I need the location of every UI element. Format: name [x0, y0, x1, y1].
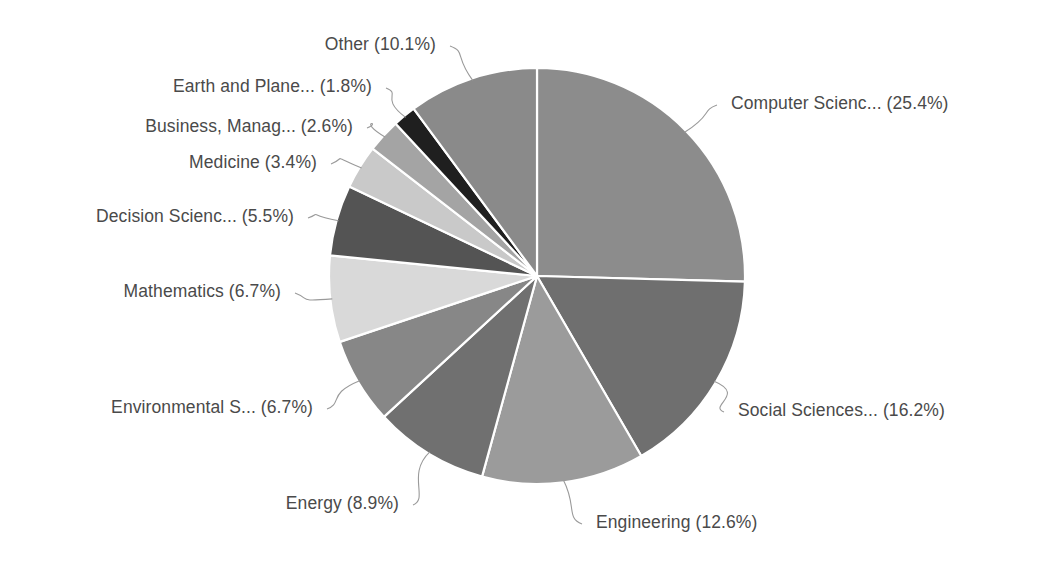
pie-chart: Computer Scienc... (25.4%)Social Science…	[0, 0, 1052, 577]
pie-slice-label: Engineering (12.6%)	[596, 514, 757, 532]
pie-slice-label: Earth and Plane... (1.8%)	[173, 78, 372, 96]
pie-slice-label: Environmental S... (6.7%)	[111, 399, 313, 417]
pie-slice-label: Energy (8.9%)	[286, 495, 399, 513]
leader-line	[327, 381, 360, 409]
leader-line	[450, 46, 473, 80]
leader-line	[564, 480, 583, 524]
leader-line	[413, 452, 430, 505]
pie-slice-label: Decision Scienc... (5.5%)	[96, 208, 294, 226]
leader-line	[685, 105, 717, 132]
pie-slice-label: Business, Manag... (2.6%)	[145, 118, 353, 136]
leader-line	[714, 381, 727, 412]
leader-line	[295, 293, 332, 300]
pie-slice-label: Social Sciences... (16.2%)	[738, 402, 945, 420]
leader-line	[386, 88, 406, 117]
pie-slice-label: Medicine (3.4%)	[189, 154, 317, 172]
leader-line	[367, 124, 385, 137]
leader-line	[331, 159, 362, 168]
pie-slice-label: Other (10.1%)	[325, 36, 436, 54]
pie-slices	[329, 68, 745, 484]
leader-line	[308, 214, 339, 220]
pie-slice-label: Computer Scienc... (25.4%)	[731, 95, 949, 113]
pie-slice-label: Mathematics (6.7%)	[124, 283, 281, 301]
pie-slice	[537, 68, 745, 282]
